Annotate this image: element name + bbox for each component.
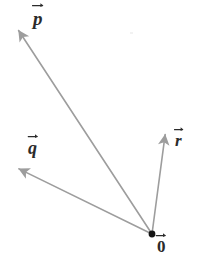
origin-label: 0: [157, 238, 166, 255]
vector-lines-svg: [0, 0, 197, 270]
vector-r-label: r: [175, 132, 182, 149]
scan-speck: [130, 32, 133, 34]
vector-q-label-text: q: [28, 138, 37, 158]
vector-p-label-text: p: [33, 8, 43, 29]
vector-r-label-text: r: [175, 131, 182, 150]
vector-p-line: [19, 31, 152, 234]
vector-q-line: [19, 169, 152, 234]
origin-label-text: 0: [157, 237, 166, 256]
origin-dot: [149, 231, 156, 238]
vector-diagram-canvas: p q r 0: [0, 0, 197, 270]
vector-r-line: [152, 135, 165, 234]
vector-q-label: q: [28, 139, 37, 157]
vector-p-label: p: [33, 9, 43, 28]
